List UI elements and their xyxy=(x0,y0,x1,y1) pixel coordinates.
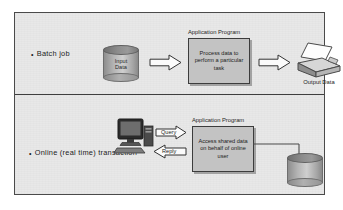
row-batch-job: •Batch job Input Data Application Progra… xyxy=(15,13,324,94)
cylinder-bottom xyxy=(103,73,139,82)
input-data-label-line2: Data xyxy=(103,64,139,70)
application-program-title: Application Program xyxy=(188,29,240,35)
arrow-query-caption: Query xyxy=(161,129,176,135)
input-data-label: Input Data xyxy=(103,57,139,70)
arrow-input-to-program-icon xyxy=(149,54,182,71)
arrow-program-to-output-icon xyxy=(258,54,291,71)
application-program-body: Process data to perform a particular tas… xyxy=(188,38,250,84)
output-data-label: Output Data xyxy=(287,79,343,85)
arrow-reply-caption: Reply xyxy=(162,148,176,154)
cylinder-bottom xyxy=(287,178,323,187)
application-program-title: Application Program xyxy=(192,117,244,123)
shared-data-cylinder xyxy=(287,153,323,187)
diagram-canvas: •Batch job Input Data Application Progra… xyxy=(0,0,343,210)
application-program-box-online: Application Program Access shared data o… xyxy=(192,126,254,172)
cylinder-top xyxy=(287,153,323,163)
application-program-box-batch: Application Program Process data to perf… xyxy=(188,38,250,84)
application-program-body: Access shared data on behalf of online u… xyxy=(192,126,254,172)
input-data-cylinder: Input Data xyxy=(103,45,139,82)
row-label-text: Batch job xyxy=(37,49,70,58)
diagram-panel: •Batch job Input Data Application Progra… xyxy=(14,12,325,195)
bullet-icon: • xyxy=(31,51,34,58)
cylinder-top xyxy=(103,45,139,55)
bullet-icon: • xyxy=(29,150,32,157)
row-label-batch-job: •Batch job xyxy=(31,49,70,58)
